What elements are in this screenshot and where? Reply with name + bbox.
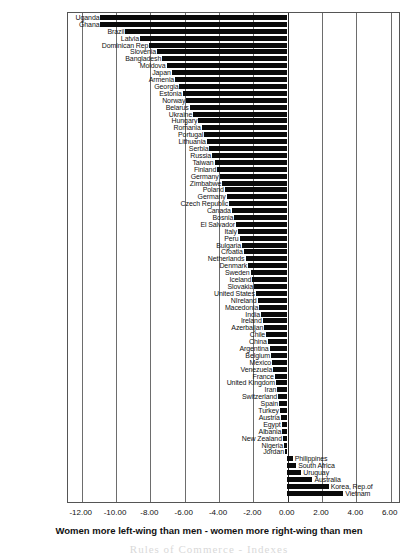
- bar-row: Bulgaria: [0, 243, 418, 249]
- bar: [258, 298, 287, 303]
- watermark-text: Rules of Commerce - Indexes: [0, 543, 418, 553]
- bar: [209, 146, 286, 151]
- bar: [198, 118, 286, 123]
- bar: [287, 491, 344, 496]
- bar: [222, 181, 286, 186]
- bar: [202, 125, 287, 130]
- chart-root: UgandaGhanaBrazilLatviaDominican RepSlov…: [0, 0, 418, 553]
- bar-row: Norway: [0, 98, 418, 104]
- bar: [227, 194, 287, 199]
- bar: [271, 353, 287, 358]
- bar: [215, 160, 287, 165]
- bar-row: Uruguay: [0, 470, 418, 476]
- bar-row: Chile: [0, 332, 418, 338]
- bar-row: Egypt: [0, 422, 418, 428]
- bar-row: Belgium: [0, 353, 418, 359]
- bar-row: Bangladesh: [0, 56, 418, 62]
- bar: [278, 394, 287, 399]
- bar: [261, 312, 287, 317]
- bar: [207, 139, 287, 144]
- bar: [162, 56, 286, 61]
- bar: [204, 132, 286, 137]
- bar: [240, 236, 287, 241]
- bar-row: Austria: [0, 415, 418, 421]
- bar-row: Ghana: [0, 22, 418, 28]
- bar: [287, 484, 329, 489]
- bar-row: United States: [0, 291, 418, 297]
- bar-row: Armenia: [0, 77, 418, 83]
- bar: [283, 436, 287, 441]
- bar-row: France: [0, 374, 418, 380]
- bar-row: Denmark: [0, 263, 418, 269]
- bar-row: China: [0, 339, 418, 345]
- bar: [220, 174, 287, 179]
- bar: [172, 70, 287, 75]
- bar-row: Belarus: [0, 105, 418, 111]
- bar-row: Slovenia: [0, 49, 418, 55]
- bar: [279, 401, 287, 406]
- bar-row: Macedonia: [0, 305, 418, 311]
- bar: [186, 98, 286, 103]
- bar-row: Canada: [0, 208, 418, 214]
- bar: [276, 380, 287, 385]
- bar: [254, 284, 287, 289]
- bar: [125, 29, 286, 34]
- bar: [217, 167, 287, 172]
- bar: [190, 105, 287, 110]
- bar: [272, 360, 287, 365]
- bar: [256, 291, 287, 296]
- bar: [140, 36, 287, 41]
- bar: [281, 415, 287, 420]
- bar-row: Lithuania: [0, 139, 418, 145]
- bar-row: India: [0, 312, 418, 318]
- bar-row: Estonia: [0, 91, 418, 97]
- bar-label: Ghana: [79, 21, 100, 28]
- bar: [264, 325, 286, 330]
- bar-row: Slovakia: [0, 284, 418, 290]
- bar: [100, 15, 286, 20]
- bar: [244, 249, 287, 254]
- bar: [273, 367, 286, 372]
- bar: [242, 243, 287, 248]
- bar-row: United Kingdom: [0, 380, 418, 386]
- bar-row: Italy: [0, 229, 418, 235]
- x-axis-title: Women more left-wing than men - women mo…: [0, 525, 418, 536]
- bar: [225, 187, 287, 192]
- bar: [149, 43, 286, 48]
- bar-row: Uganda: [0, 15, 418, 21]
- bar-label: Vietnam: [345, 490, 370, 497]
- bar: [193, 112, 287, 117]
- bar: [277, 387, 286, 392]
- bar-row: Portugal: [0, 132, 418, 138]
- bar: [280, 408, 287, 413]
- bar: [175, 77, 287, 82]
- bar: [232, 208, 287, 213]
- x-tick-label: 6.00: [368, 508, 412, 518]
- bar: [157, 49, 287, 54]
- bar: [287, 470, 302, 475]
- bar-row: Azerbaijan: [0, 325, 418, 331]
- bar-row: Mexico: [0, 360, 418, 366]
- bar: [252, 277, 286, 282]
- bar: [248, 263, 287, 268]
- bar: [287, 456, 293, 461]
- bar-row: Turkey: [0, 408, 418, 414]
- bar-row: Netherlands: [0, 256, 418, 262]
- bar-label: Jordan: [263, 448, 284, 455]
- bar: [270, 346, 287, 351]
- bar: [284, 443, 287, 448]
- bar-row: Philippines: [0, 456, 418, 462]
- bar: [275, 374, 287, 379]
- bar: [229, 201, 287, 206]
- bar-row: Jordan: [0, 449, 418, 455]
- bar: [179, 84, 286, 89]
- bar: [246, 256, 287, 261]
- bar-row: Iceland: [0, 277, 418, 283]
- bar-row: Venezuela: [0, 367, 418, 373]
- bar-row: Ireland: [0, 318, 418, 324]
- bar-row: Latvia: [0, 36, 418, 42]
- bar-row: New Zealand: [0, 436, 418, 442]
- bar: [238, 229, 287, 234]
- bar: [266, 332, 287, 337]
- bar: [282, 422, 287, 427]
